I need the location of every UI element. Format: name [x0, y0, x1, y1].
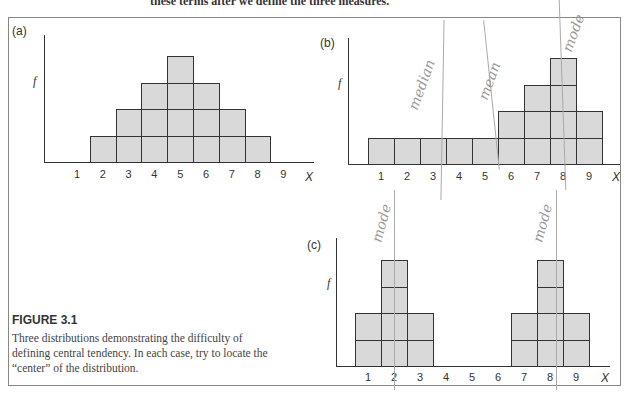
bar-block: [537, 260, 564, 288]
bar-block: [420, 138, 447, 166]
bar-block: [563, 340, 590, 368]
bar-block: [167, 109, 194, 137]
x-tick-label: 9: [270, 168, 296, 180]
bar-block: [407, 340, 434, 368]
bar-block: [193, 83, 220, 111]
panel-a-xlabel: X: [305, 170, 313, 184]
bar-block: [537, 340, 564, 368]
bar-block: [116, 109, 143, 137]
x-tick-label: 4: [446, 170, 472, 182]
bar-block: [193, 109, 220, 137]
bar-block: [141, 109, 168, 137]
bar-block: [511, 313, 538, 341]
bar-block: [167, 83, 194, 111]
x-tick-label: 5: [167, 168, 193, 180]
x-tick-label: 1: [368, 170, 394, 182]
bar-block: [167, 136, 194, 164]
bar-block: [563, 313, 590, 341]
panel-c-xlabel: X: [601, 371, 609, 385]
x-tick-label: 7: [219, 168, 245, 180]
bar-block: [368, 138, 395, 166]
bar-block: [141, 83, 168, 111]
panel-c-ylabel: f: [327, 276, 330, 291]
panel-b-y-axis: [348, 38, 349, 164]
x-tick-label: 6: [193, 168, 219, 180]
x-tick-label: 5: [472, 170, 498, 182]
x-tick-label: 8: [537, 371, 563, 383]
panel-b-xlabel: X: [612, 170, 620, 184]
x-tick-label: 3: [407, 371, 433, 383]
panel-c-y-axis: [336, 238, 337, 366]
x-tick-label: 6: [498, 170, 524, 182]
bar-block: [576, 111, 603, 139]
bar-block: [193, 136, 220, 164]
bar-block: [576, 138, 603, 166]
mode-pencil-line-c-right: [556, 190, 557, 390]
x-tick-label: 2: [394, 170, 420, 182]
x-tick-label: 4: [433, 371, 459, 383]
bar-block: [141, 136, 168, 164]
x-tick-label: 2: [90, 168, 116, 180]
bar-block: [355, 340, 382, 368]
x-tick-label: 7: [511, 371, 537, 383]
bar-block: [498, 138, 525, 166]
x-tick-label: 1: [64, 168, 90, 180]
bar-block: [498, 111, 525, 139]
bar-block: [511, 340, 538, 368]
x-tick-label: 9: [563, 371, 589, 383]
bar-block: [245, 136, 272, 164]
x-tick-label: 5: [459, 371, 485, 383]
bar-block: [407, 313, 434, 341]
panel-a-y-axis: [44, 35, 45, 163]
panel-a-label: (a): [12, 24, 27, 38]
figure-caption: Three distributions demonstrating the di…: [12, 331, 272, 376]
panel-b-ylabel: f: [338, 76, 341, 91]
panel-c-label: (c): [307, 238, 321, 252]
panel-b-label: (b): [320, 36, 335, 50]
bar-block: [550, 85, 577, 113]
bar-block: [355, 313, 382, 341]
bar-block: [524, 85, 551, 113]
bar-block: [524, 138, 551, 166]
x-tick-label: 3: [116, 168, 142, 180]
figure-title: FIGURE 3.1: [12, 313, 77, 327]
bar-block: [537, 313, 564, 341]
x-tick-label: 8: [550, 170, 576, 182]
bar-block: [167, 56, 194, 84]
bar-block: [394, 138, 421, 166]
x-tick-label: 9: [576, 170, 602, 182]
x-tick-label: 8: [245, 168, 271, 180]
panel-a-ylabel: f: [33, 74, 36, 89]
bar-block: [446, 138, 473, 166]
bar-block: [219, 109, 246, 137]
page-top-text: these terms after we define the three me…: [150, 0, 389, 9]
x-tick-label: 4: [141, 168, 167, 180]
bar-block: [116, 136, 143, 164]
x-tick-label: 6: [485, 371, 511, 383]
x-tick-label: 1: [355, 371, 381, 383]
bar-block: [219, 136, 246, 164]
mode-pencil-line-c-left: [394, 190, 395, 390]
x-tick-label: 3: [420, 170, 446, 182]
bar-block: [524, 111, 551, 139]
bar-block: [537, 287, 564, 315]
x-tick-label: 7: [524, 170, 550, 182]
bar-block: [90, 136, 117, 164]
bar-block: [550, 58, 577, 86]
